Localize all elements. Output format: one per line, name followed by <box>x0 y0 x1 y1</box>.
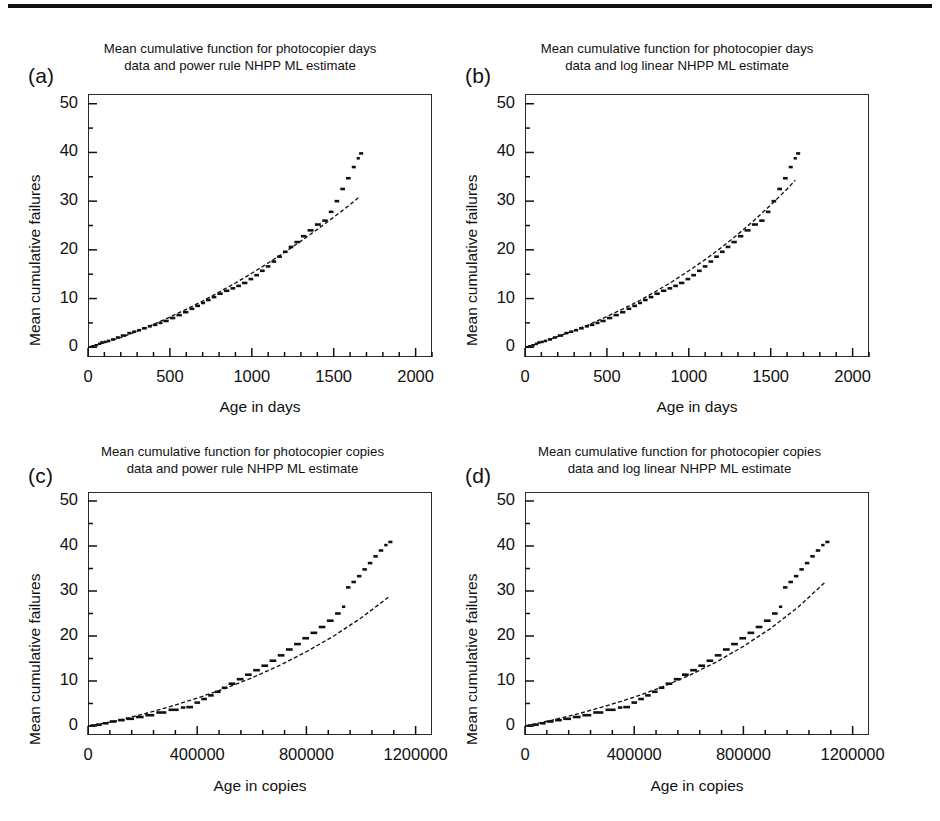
y-tick-label: 30 <box>10 190 78 209</box>
x-tick-label: 800000 <box>246 745 366 764</box>
series-mcf-step <box>528 542 830 726</box>
y-tick-label: 0 <box>10 336 78 355</box>
y-tick-label: 0 <box>447 715 515 734</box>
y-tick-label: 10 <box>10 288 78 307</box>
panel-d-letter: (d) <box>465 464 491 488</box>
x-tick-label: 2000 <box>793 367 913 386</box>
panel-c-title-line2: data and power rule NHPP ML estimate <box>70 460 415 477</box>
series-ml-estimate <box>88 597 388 726</box>
panel-c-letter: (c) <box>28 464 53 488</box>
panel-a-title-line1: Mean cumulative function for photocopier… <box>104 41 377 56</box>
series-mcf-step <box>91 153 363 346</box>
x-tick-label: 800000 <box>683 745 803 764</box>
y-tick-label: 50 <box>447 93 515 112</box>
x-tick-label: 400000 <box>137 745 257 764</box>
panel-b-xlabel: Age in days <box>597 398 797 416</box>
chart-panel-a: (a) Mean cumulative function for photoco… <box>0 28 470 428</box>
y-tick-label: 50 <box>10 490 78 509</box>
y-tick-label: 0 <box>447 336 515 355</box>
y-tick-label: 30 <box>10 580 78 599</box>
series-ml-estimate <box>525 582 825 726</box>
panel-d-canvas <box>525 492 869 735</box>
series-mcf-step <box>528 153 800 346</box>
panel-b-title-line2: data and log linear NHPP ML estimate <box>507 57 847 74</box>
y-tick-label: 50 <box>447 490 515 509</box>
y-tick-label: 0 <box>10 715 78 734</box>
x-tick-label: 400000 <box>574 745 694 764</box>
series-ml-estimate <box>525 180 795 347</box>
panel-c-title: Mean cumulative function for photocopier… <box>70 443 415 477</box>
panel-a-letter: (a) <box>28 64 54 88</box>
y-tick-label: 30 <box>447 190 515 209</box>
y-tick-label: 30 <box>447 580 515 599</box>
y-tick-label: 40 <box>447 535 515 554</box>
y-tick-label: 10 <box>447 670 515 689</box>
panel-c-title-line1: Mean cumulative function for photocopier… <box>101 444 384 459</box>
panel-a-canvas <box>88 94 432 357</box>
panel-b-letter: (b) <box>465 64 491 88</box>
header-rule <box>8 4 932 8</box>
y-tick-label: 20 <box>447 625 515 644</box>
panel-d-xlabel: Age in copies <box>597 777 797 795</box>
chart-panel-b: (b) Mean cumulative function for photoco… <box>437 28 940 428</box>
panel-a-xlabel: Age in days <box>160 398 360 416</box>
x-tick-label: 0 <box>465 745 585 764</box>
panel-b-title-line1: Mean cumulative function for photocopier… <box>541 41 814 56</box>
panel-d-title: Mean cumulative function for photocopier… <box>507 443 852 477</box>
chart-panel-d: (d) Mean cumulative function for photoco… <box>437 435 940 821</box>
y-tick-label: 40 <box>10 141 78 160</box>
panel-a-title: Mean cumulative function for photocopier… <box>70 40 410 74</box>
y-tick-label: 40 <box>447 141 515 160</box>
y-tick-label: 10 <box>10 670 78 689</box>
y-tick-label: 20 <box>447 239 515 258</box>
x-tick-label: 0 <box>28 745 148 764</box>
y-tick-label: 20 <box>10 239 78 258</box>
panel-d-title-line2: data and log linear NHPP ML estimate <box>507 460 852 477</box>
panel-b-title: Mean cumulative function for photocopier… <box>507 40 847 74</box>
y-tick-label: 20 <box>10 625 78 644</box>
chart-panel-c: (c) Mean cumulative function for photoco… <box>0 435 470 821</box>
series-ml-estimate <box>88 198 358 348</box>
panel-c-canvas <box>88 492 432 735</box>
panel-a-title-line2: data and power rule NHPP ML estimate <box>70 57 410 74</box>
x-tick-label: 1200000 <box>793 745 913 764</box>
y-tick-label: 50 <box>10 93 78 112</box>
y-tick-label: 40 <box>10 535 78 554</box>
y-tick-label: 10 <box>447 288 515 307</box>
series-mcf-step <box>91 542 393 726</box>
panel-c-xlabel: Age in copies <box>160 777 360 795</box>
panel-d-title-line1: Mean cumulative function for photocopier… <box>538 444 821 459</box>
panel-b-canvas <box>525 94 869 357</box>
